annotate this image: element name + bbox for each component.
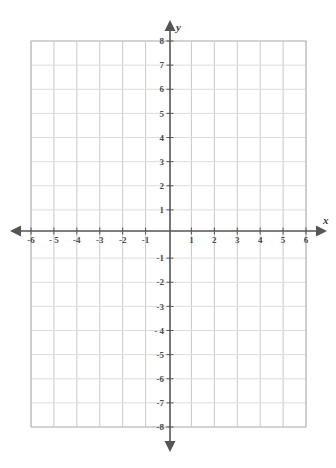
y-tick-label: -7 bbox=[157, 398, 165, 408]
x-tick-label: 4 bbox=[258, 235, 263, 245]
x-tick-label: 2 bbox=[212, 235, 217, 245]
y-tick-label: - 4 bbox=[154, 326, 164, 336]
y-tick-label: -8 bbox=[157, 422, 165, 432]
x-tick-label: 3 bbox=[235, 235, 240, 245]
x-tick-label: -1 bbox=[142, 235, 150, 245]
y-tick-label: -3 bbox=[157, 302, 165, 312]
y-tick-label: 4 bbox=[160, 133, 165, 143]
y-tick-label: 7 bbox=[160, 60, 165, 70]
y-tick-label: 8 bbox=[160, 36, 165, 46]
x-tick-label: -3 bbox=[96, 235, 104, 245]
x-tick-label: 6 bbox=[304, 235, 309, 245]
x-tick-label: -2 bbox=[119, 235, 127, 245]
y-tick-label: 1 bbox=[160, 205, 165, 215]
x-tick-label: -4 bbox=[73, 235, 81, 245]
y-tick-label: 2 bbox=[160, 181, 165, 191]
cartesian-plane-svg: -6- 5-4-3-2-1123456 87654321-1-2-3- 4-5-… bbox=[0, 0, 336, 468]
x-tick-label: 5 bbox=[281, 235, 286, 245]
x-axis-label: x bbox=[322, 214, 329, 226]
x-tick-label: 1 bbox=[189, 235, 194, 245]
y-tick-label: 5 bbox=[160, 109, 165, 119]
y-tick-label: -5 bbox=[157, 350, 165, 360]
canvas-background bbox=[0, 0, 336, 468]
y-axis-label: y bbox=[174, 21, 181, 33]
x-tick-label: - 5 bbox=[49, 235, 59, 245]
y-tick-label: -1 bbox=[157, 253, 165, 263]
y-tick-label: -2 bbox=[157, 277, 165, 287]
y-tick-label: 6 bbox=[160, 84, 165, 94]
y-tick-label: 3 bbox=[160, 157, 165, 167]
y-tick-label: -6 bbox=[157, 374, 165, 384]
coordinate-graph: -6- 5-4-3-2-1123456 87654321-1-2-3- 4-5-… bbox=[0, 0, 336, 468]
x-tick-label: -6 bbox=[27, 235, 35, 245]
